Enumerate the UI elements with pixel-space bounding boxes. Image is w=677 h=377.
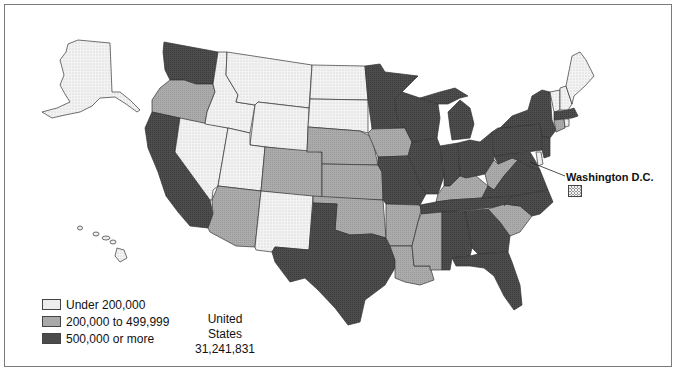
legend-swatch-high: [42, 333, 61, 344]
state-new-mexico: [255, 191, 313, 252]
state-alaska: [42, 40, 140, 118]
state-florida: [452, 252, 522, 310]
legend-swatch-mid: [42, 316, 61, 327]
legend-label: 500,000 or more: [66, 332, 154, 346]
legend-label: Under 200,000: [66, 298, 145, 312]
state-connecticut: [554, 119, 565, 132]
legend-label: 200,000 to 499,999: [66, 315, 169, 329]
state-new-jersey: [542, 136, 550, 158]
legend-item-mid: 200,000 to 499,999: [42, 313, 169, 330]
state-montana: [226, 52, 312, 108]
state-maine: [566, 52, 594, 104]
dc-label: Washington D.C.: [566, 171, 654, 183]
state-hawaii: [78, 226, 128, 262]
us-total-value: 31,241,831: [190, 342, 260, 357]
legend-item-high: 500,000 or more: [42, 330, 169, 347]
dc-swatch: [568, 185, 582, 197]
state-colorado: [261, 147, 322, 198]
us-total: United States 31,241,831: [190, 312, 260, 357]
state-pennsylvania: [492, 124, 546, 156]
state-washington: [163, 42, 218, 84]
state-kansas: [322, 164, 383, 200]
state-north-dakota: [310, 65, 368, 100]
legend-item-low: Under 200,000: [42, 296, 169, 313]
legend: Under 200,000 200,000 to 499,999 500,000…: [42, 296, 169, 347]
legend-swatch-low: [42, 299, 61, 310]
state-rhode-island: [564, 119, 569, 127]
state-wyoming: [250, 102, 309, 152]
us-total-label: United States: [190, 312, 260, 342]
state-arizona: [208, 186, 261, 247]
